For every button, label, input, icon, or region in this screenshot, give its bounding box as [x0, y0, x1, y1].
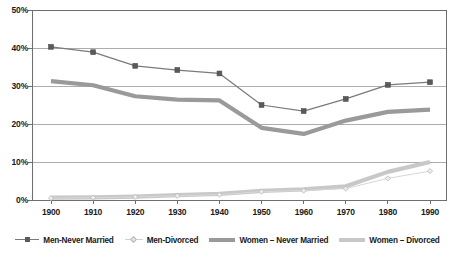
legend-label-women-divorced: Women – Divorced — [369, 236, 439, 245]
x-axis-tick-label: 1920 — [118, 207, 152, 217]
legend-marker-women-divorced-icon — [339, 235, 365, 245]
y-axis-tick-label: 0% — [0, 195, 28, 205]
x-axis-tick-label: 1980 — [371, 207, 405, 217]
legend-marker-men-divorced-icon — [125, 235, 143, 245]
y-axis-tick-label: 10% — [0, 157, 28, 167]
x-axis-tick-label: 1950 — [245, 207, 279, 217]
x-axis-tick-label: 1900 — [34, 207, 68, 217]
legend-item-men-divorced: Men-Divorced — [125, 235, 199, 245]
chart-legend: Men-Never Married Men-Divorced Women – N… — [0, 230, 455, 250]
x-axis-tick-label: 1940 — [202, 207, 236, 217]
y-axis-tick-label: 40% — [0, 43, 28, 53]
legend-marker-men-never-married-icon — [15, 235, 39, 245]
y-axis-tick-label: 50% — [0, 5, 28, 15]
chart-container: 0%10%20%30%40%50% 1900191019201930194019… — [0, 0, 455, 257]
y-axis-tick-label: 30% — [0, 81, 28, 91]
x-axis-tick-label: 1990 — [413, 207, 447, 217]
x-axis-tick-label: 1930 — [160, 207, 194, 217]
x-axis-tick-label: 1960 — [287, 207, 321, 217]
legend-item-women-divorced: Women – Divorced — [339, 235, 439, 245]
legend-label-men-divorced: Men-Divorced — [147, 236, 199, 245]
legend-label-women-never-married: Women – Never Married — [239, 236, 328, 245]
legend-marker-women-never-married-icon — [209, 235, 235, 245]
legend-label-men-never-married: Men-Never Married — [43, 236, 113, 245]
chart-plot-area — [0, 0, 455, 257]
y-axis-tick-label: 20% — [0, 119, 28, 129]
legend-item-women-never-married: Women – Never Married — [209, 235, 328, 245]
x-axis-tick-label: 1970 — [329, 207, 363, 217]
x-axis-tick-label: 1910 — [76, 207, 110, 217]
legend-item-men-never-married: Men-Never Married — [15, 235, 113, 245]
